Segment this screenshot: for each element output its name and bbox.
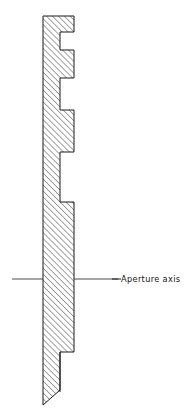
figure-root: Aperture axis [0,0,192,413]
cross-section-drawing: Aperture axis [0,0,192,413]
aperture-axis-label: Aperture axis [121,274,180,284]
plate-section-body [43,16,74,405]
